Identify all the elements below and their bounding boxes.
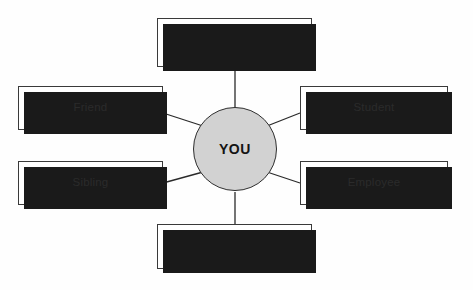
connector-line-student: [267, 113, 300, 126]
concept-map-diagram: Friend Student Sibling Employee YOU: [0, 0, 473, 290]
center-circle-label: YOU: [219, 142, 251, 156]
node-box-bottom[interactable]: [157, 224, 312, 269]
node-box-employee[interactable]: Employee: [300, 161, 448, 205]
connector-line-employee: [267, 172, 300, 183]
node-box-sibling[interactable]: Sibling: [18, 161, 163, 205]
node-label-friend: Friend: [74, 102, 108, 114]
connector-line-friend: [163, 113, 203, 126]
node-box-top[interactable]: [157, 18, 312, 67]
node-label-student: Student: [353, 102, 394, 114]
node-box-friend[interactable]: Friend: [18, 86, 163, 130]
node-box-student[interactable]: Student: [300, 86, 448, 130]
connector-line-sibling: [163, 172, 203, 183]
node-label-employee: Employee: [348, 177, 401, 189]
node-label-sibling: Sibling: [73, 177, 109, 189]
center-circle-you[interactable]: YOU: [193, 107, 277, 191]
